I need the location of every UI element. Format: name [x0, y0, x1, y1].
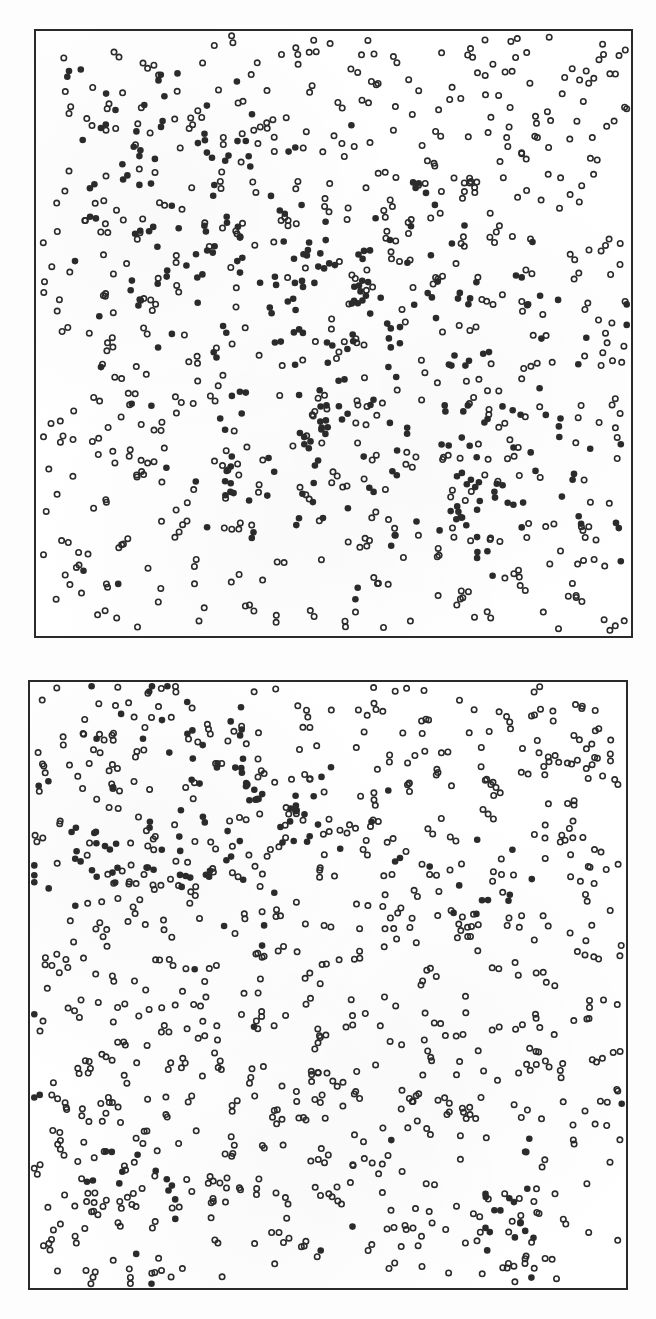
hollow-marker — [567, 136, 572, 141]
hollow-marker — [591, 881, 596, 886]
hollow-marker — [60, 433, 65, 438]
filled-marker — [536, 385, 543, 392]
hollow-marker — [549, 1257, 554, 1262]
hollow-marker — [202, 979, 207, 984]
hollow-marker — [196, 618, 201, 623]
hollow-marker — [77, 1015, 82, 1020]
filled-marker — [31, 862, 38, 869]
hollow-marker — [434, 974, 439, 979]
hollow-marker — [176, 1141, 181, 1146]
filled-marker — [529, 239, 536, 246]
hollow-marker — [159, 479, 164, 484]
filled-marker — [222, 427, 229, 434]
filled-marker — [240, 755, 247, 762]
hollow-marker — [272, 135, 277, 140]
filled-marker — [301, 441, 308, 448]
hollow-marker — [415, 1243, 420, 1248]
filled-marker — [322, 431, 329, 438]
hollow-marker — [270, 1115, 275, 1120]
filled-marker — [169, 203, 176, 210]
hollow-marker — [256, 1176, 261, 1181]
hollow-marker — [366, 100, 371, 105]
hollow-marker — [111, 1258, 116, 1263]
hollow-marker — [359, 52, 364, 57]
filled-marker — [243, 780, 250, 787]
hollow-marker — [388, 915, 393, 920]
hollow-marker — [236, 472, 241, 477]
hollow-marker — [399, 307, 404, 312]
hollow-marker — [354, 901, 359, 906]
filled-marker — [164, 267, 171, 274]
hollow-marker — [318, 1193, 323, 1198]
hollow-marker — [186, 359, 191, 364]
hollow-marker — [607, 71, 612, 76]
hollow-marker — [281, 1240, 286, 1245]
hollow-marker — [308, 608, 313, 613]
hollow-marker — [322, 1160, 327, 1165]
hollow-marker — [380, 1161, 385, 1166]
filled-marker — [397, 855, 404, 862]
hollow-marker — [453, 838, 458, 843]
filled-marker — [250, 529, 257, 536]
hollow-marker — [152, 170, 157, 175]
hollow-marker — [598, 1099, 603, 1104]
hollow-marker — [85, 551, 90, 556]
hollow-marker — [580, 835, 585, 840]
hollow-marker — [98, 1101, 103, 1106]
filled-marker — [385, 364, 392, 371]
hollow-marker — [189, 185, 194, 190]
filled-marker — [587, 446, 594, 453]
hollow-marker — [113, 126, 118, 131]
hollow-marker — [565, 801, 570, 806]
hollow-marker — [586, 776, 591, 781]
filled-marker — [211, 243, 218, 250]
hollow-marker — [42, 962, 47, 967]
hollow-marker — [35, 750, 40, 755]
hollow-marker — [586, 524, 591, 529]
hollow-marker — [68, 918, 73, 923]
hollow-marker — [581, 558, 586, 563]
hollow-marker — [608, 908, 613, 913]
hollow-marker — [488, 361, 493, 366]
filled-marker — [397, 340, 404, 347]
hollow-marker — [524, 1062, 529, 1067]
hollow-marker — [128, 862, 133, 867]
filled-marker — [96, 313, 103, 320]
hollow-marker — [586, 247, 591, 252]
hollow-marker — [388, 249, 393, 254]
hollow-marker — [495, 1078, 500, 1083]
filled-marker — [271, 890, 278, 897]
hollow-marker — [615, 1238, 620, 1243]
hollow-marker — [520, 309, 525, 314]
hollow-marker — [274, 1121, 279, 1126]
filled-marker — [245, 153, 252, 160]
hollow-marker — [609, 402, 614, 407]
hollow-marker — [447, 97, 452, 102]
hollow-marker — [475, 70, 480, 75]
filled-marker — [571, 471, 578, 478]
hollow-marker — [190, 122, 195, 127]
hollow-marker — [111, 1019, 116, 1024]
hollow-marker — [327, 829, 332, 834]
hollow-marker — [571, 733, 576, 738]
hollow-marker — [101, 737, 106, 742]
hollow-marker — [117, 1199, 122, 1204]
hollow-marker — [476, 377, 481, 382]
hollow-marker — [41, 240, 46, 245]
hollow-marker — [394, 60, 399, 65]
hollow-marker — [550, 708, 555, 713]
hollow-marker — [141, 747, 146, 752]
hollow-marker — [283, 1013, 288, 1018]
hollow-marker — [601, 52, 606, 57]
hollow-marker — [505, 144, 510, 149]
filled-marker — [246, 797, 253, 804]
hollow-marker — [280, 363, 285, 368]
hollow-marker — [446, 1270, 451, 1275]
hollow-marker — [238, 520, 243, 525]
hollow-marker — [293, 45, 298, 50]
hollow-marker — [542, 772, 547, 777]
hollow-marker — [589, 741, 594, 746]
hollow-marker — [124, 1081, 129, 1086]
hollow-marker — [184, 1177, 189, 1182]
filled-marker — [393, 374, 400, 381]
